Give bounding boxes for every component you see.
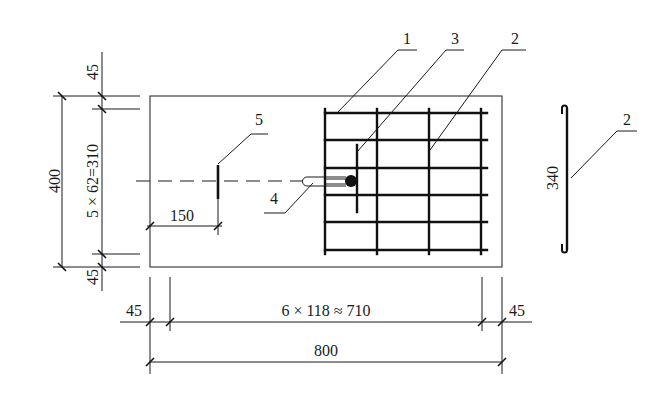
callout-3: 3 [357,30,464,152]
dim-bottom-chain: 45 6 × 118 ≈ 710 45 [120,277,532,374]
svg-text:150: 150 [170,207,194,224]
svg-text:45: 45 [509,302,525,319]
callout-4: 4 [264,183,313,213]
callout-2: 2 [430,30,526,150]
svg-text:2: 2 [511,30,519,47]
svg-text:400: 400 [46,169,63,193]
svg-text:5 × 62=310: 5 × 62=310 [84,144,101,218]
svg-text:800: 800 [314,342,338,359]
anchor-dot [345,175,357,187]
svg-text:4: 4 [270,190,278,207]
svg-text:5: 5 [255,111,263,128]
dim-left-chain: 45 5 × 62=310 45 [84,52,140,291]
svg-text:45: 45 [84,269,101,285]
svg-text:2: 2 [623,111,631,128]
svg-text:45: 45 [84,64,101,80]
svg-text:3: 3 [451,30,459,47]
callout-5: 5 [218,111,268,164]
svg-text:45: 45 [126,302,142,319]
bar-2-detail: 2 340 [544,106,637,253]
svg-text:1: 1 [403,30,411,47]
callout-1: 1 [337,30,417,113]
dim-bottom-total: 800 [146,342,506,366]
reinforcement-drawing: 1 3 2 5 4 150 400 [0,0,672,401]
svg-text:6 × 118 ≈ 710: 6 × 118 ≈ 710 [281,302,370,319]
dim-anchor-offset: 150 [146,199,222,235]
svg-text:340: 340 [544,166,561,190]
